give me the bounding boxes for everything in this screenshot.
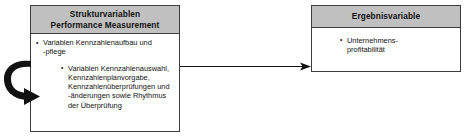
bullet-line: -änderungen sowie Rhythmus: [68, 91, 174, 100]
node-ergebnisvariable-body: Unternehmens- profitabilität: [312, 28, 460, 61]
bullet-line: der Überprüfung: [68, 101, 174, 110]
node-strukturvariablen-header-line-1: Strukturvariablen: [33, 9, 177, 20]
list-item: Variablen Kennzahlenauswahl, Kennzahlenp…: [61, 64, 174, 110]
curved-arrow-icon: [1, 55, 43, 107]
node-ergebnisvariable-header-line-1: Ergebnisvariable: [314, 11, 458, 22]
bullet-line: Kennzahlenplanvorgabe,: [68, 73, 174, 82]
bullet-line: profitabilität: [347, 45, 455, 54]
node-strukturvariablen-header: Strukturvariablen Performance Measuremen…: [31, 6, 179, 34]
list-item: Unternehmens- profitabilität: [340, 36, 455, 55]
bullet-line: Unternehmens-: [347, 36, 455, 45]
node-strukturvariablen[interactable]: Strukturvariablen Performance Measuremen…: [30, 5, 180, 132]
node-strukturvariablen-header-line-2: Performance Measurement: [33, 20, 177, 31]
list-item: Variablen Kennzahlenaufbau und -pflege: [36, 38, 174, 57]
bullet-line: Kennzahlenüberprüfungen und: [68, 82, 174, 91]
node-ergebnisvariable-header: Ergebnisvariable: [312, 6, 460, 28]
node-ergebnisvariable[interactable]: Ergebnisvariable Unternehmens- profitabi…: [311, 5, 461, 72]
bullet-line: Variablen Kennzahlenauswahl,: [68, 64, 174, 73]
connector-arrow-right: [180, 58, 311, 69]
node-strukturvariablen-body: Variablen Kennzahlenaufbau und -pflege V…: [31, 34, 179, 116]
connector-feedback-loop: [1, 55, 43, 107]
diagram-canvas: Strukturvariablen Performance Measuremen…: [0, 0, 469, 139]
bullet-line: Variablen Kennzahlenaufbau und: [43, 38, 174, 47]
bullet-line: -pflege: [43, 47, 174, 56]
arrow-right-icon: [180, 61, 311, 72]
